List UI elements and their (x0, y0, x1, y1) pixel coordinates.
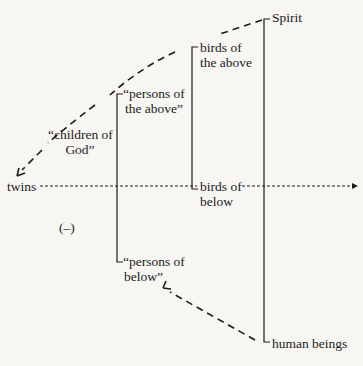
persons-above-label-line1: “persons of (123, 86, 185, 101)
human-to-persons-below-dashed (170, 292, 255, 340)
persons-below-label-line1: “persons of (123, 254, 185, 269)
children-of-god-label-line2: God” (48, 142, 112, 157)
right-arrowhead-icon (352, 183, 358, 189)
persons-below-label-line2: below” (124, 269, 163, 284)
human-beings-label: human beings (272, 336, 347, 351)
persons-above-label-line2: the above” (125, 101, 183, 116)
twins-label: twins (7, 179, 36, 194)
birds-bracket (192, 47, 198, 189)
persons-below-arrowhead-icon (163, 281, 171, 289)
spirit-label: Spirit (272, 10, 302, 25)
children-of-god-label-line1: “children of (48, 127, 112, 142)
birds-below-label-line1: birds of (200, 179, 242, 194)
birds-below-label-line2: below (200, 194, 233, 209)
birds-above-label-line1: birds of (200, 40, 242, 55)
negative-sign-label: (–) (59, 220, 75, 235)
diagram-canvas: Spirit birds of the above “persons of th… (0, 0, 363, 366)
diagram-lines (0, 0, 363, 366)
persons-bracket (117, 94, 123, 262)
birds-above-label-line2: the above (200, 55, 252, 70)
spirit-human-bracket (264, 19, 270, 342)
